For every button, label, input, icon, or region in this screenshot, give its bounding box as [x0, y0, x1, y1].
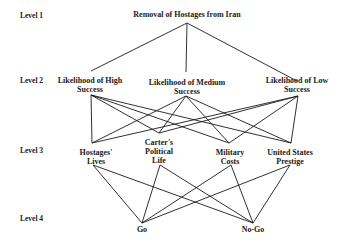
- edge-criterion-3-alternative-0: [142, 165, 290, 223]
- edge-scenario-2-criterion-3: [291, 96, 298, 143]
- edge-scenario-1-criterion-1: [159, 96, 186, 133]
- level-1-label: Level 1: [20, 11, 43, 20]
- edge-goal-scenario-1: [186, 23, 187, 72]
- edge-scenario-0-criterion-3: [91, 95, 291, 143]
- edge-criterion-2-alternative-1: [231, 165, 253, 223]
- criterion-prestige-line1: United States: [267, 148, 313, 157]
- scenario-low-line1: Likelihood of Low: [266, 76, 329, 85]
- criterion-military-line2: Costs: [216, 157, 244, 166]
- edge-scenario-2-criterion-1: [159, 96, 298, 133]
- edge-criterion-2-alternative-0: [142, 165, 231, 223]
- alternative-node-no-go: No-Go: [242, 225, 265, 234]
- criterion-hostages-line2: Lives: [80, 157, 113, 166]
- edge-criterion-3-alternative-1: [253, 165, 290, 223]
- edge-goal-scenario-0: [91, 23, 187, 71]
- criterion-prestige-line2: Prestige: [267, 157, 313, 166]
- edge-scenario-0-criterion-2: [91, 95, 229, 143]
- criterion-node-hostages-lives: Hostages' Lives: [80, 148, 113, 166]
- scenario-medium-line2: Success: [149, 87, 225, 96]
- criterion-hostages-line1: Hostages': [80, 148, 113, 157]
- criterion-node-carters-political-life: Carter's Political Life: [145, 138, 173, 165]
- edge-scenario-1-criterion-3: [186, 96, 291, 143]
- level-4-label: Level 4: [20, 214, 43, 223]
- scenario-high-line2: Success: [58, 85, 122, 94]
- criterion-node-us-prestige: United States Prestige: [267, 148, 313, 166]
- level-3-label: Level 3: [20, 146, 43, 155]
- scenario-node-high: Likelihood of High Success: [58, 76, 122, 94]
- edge-layer: [0, 0, 349, 250]
- criterion-military-line1: Military: [216, 148, 244, 157]
- hierarchy-diagram: Level 1 Level 2 Level 3 Level 4 Removal …: [0, 0, 349, 250]
- goal-node: Removal of Hostages from Iran: [133, 10, 240, 19]
- criterion-carter-line3: Life: [145, 156, 173, 165]
- criterion-node-military-costs: Military Costs: [216, 148, 244, 166]
- edge-scenario-0-criterion-0: [91, 95, 92, 143]
- scenario-high-line1: Likelihood of High: [58, 76, 122, 85]
- scenario-low-line2: Success: [266, 85, 329, 94]
- scenario-node-low: Likelihood of Low Success: [266, 76, 329, 94]
- level-2-label: Level 2: [20, 76, 43, 85]
- edge-criterion-1-alternative-0: [142, 165, 160, 223]
- alternative-node-go: Go: [137, 225, 147, 234]
- scenario-medium-line1: Likelihood of Medium: [149, 78, 225, 87]
- scenario-node-medium: Likelihood of Medium Success: [149, 78, 225, 96]
- edge-goal-scenario-2: [187, 23, 297, 81]
- criterion-carter-line1: Carter's: [145, 138, 173, 147]
- criterion-carter-line2: Political: [145, 147, 173, 156]
- edge-scenario-0-criterion-1: [91, 95, 159, 133]
